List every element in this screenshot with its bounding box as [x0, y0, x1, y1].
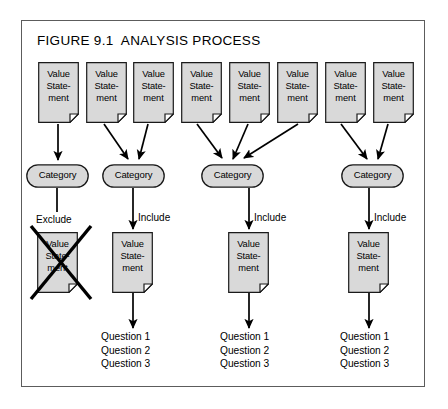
- category-label-2: Category: [102, 169, 165, 180]
- value-statement-doc-3: Value State- ment: [133, 62, 174, 123]
- question-group-1: Question 1 Question 2 Question 3: [101, 330, 150, 371]
- doc-line-3: ment: [133, 92, 174, 104]
- doc-line-2: State-: [38, 80, 79, 92]
- question-group-3: Question 1 Question 2 Question 3: [340, 330, 389, 371]
- category-label-1: Category: [26, 169, 89, 180]
- value-statement-label-4: Value State- ment: [181, 68, 222, 104]
- question-item-3: Question 3: [101, 357, 150, 371]
- doc-line-1: Value: [325, 68, 366, 80]
- value-statement-label-3: Value State- ment: [133, 68, 174, 104]
- doc-line-3: ment: [348, 262, 389, 274]
- include-label-1: Include: [138, 212, 170, 223]
- doc-line-3: ment: [229, 92, 270, 104]
- doc-line-2: State-: [228, 250, 269, 262]
- doc-line-1: Value: [37, 238, 78, 250]
- question-item-2: Question 2: [101, 344, 150, 358]
- doc-line-1: Value: [228, 238, 269, 250]
- category-node-3: Category: [201, 164, 264, 188]
- included-value-statement-label-3: Value State- ment: [348, 238, 389, 274]
- doc-line-1: Value: [38, 68, 79, 80]
- doc-line-3: ment: [277, 92, 318, 104]
- doc-line-1: Value: [112, 238, 153, 250]
- category-node-4: Category: [341, 164, 404, 188]
- doc-line-1: Value: [133, 68, 174, 80]
- value-statement-doc-6: Value State- ment: [277, 62, 318, 123]
- value-statement-doc-5: Value State- ment: [229, 62, 270, 123]
- doc-line-1: Value: [348, 238, 389, 250]
- value-statement-doc-1: Value State- ment: [38, 62, 79, 123]
- question-group-2: Question 1 Question 2 Question 3: [220, 330, 269, 371]
- included-value-statement-doc-3: Value State- ment: [348, 232, 389, 293]
- included-value-statement-doc-2: Value State- ment: [228, 232, 269, 293]
- doc-line-2: State-: [181, 80, 222, 92]
- included-value-statement-label-1: Value State- ment: [112, 238, 153, 274]
- value-statement-doc-4: Value State- ment: [181, 62, 222, 123]
- doc-line-3: ment: [228, 262, 269, 274]
- value-statement-label-6: Value State- ment: [277, 68, 318, 104]
- include-label-2: Include: [254, 212, 286, 223]
- doc-line-2: State-: [37, 250, 78, 262]
- doc-line-3: ment: [86, 92, 127, 104]
- category-label-3: Category: [201, 169, 264, 180]
- doc-line-1: Value: [86, 68, 127, 80]
- doc-line-1: Value: [181, 68, 222, 80]
- exclude-label: Exclude: [36, 214, 72, 225]
- doc-line-3: ment: [325, 92, 366, 104]
- doc-line-1: Value: [373, 68, 414, 80]
- category-label-4: Category: [341, 169, 404, 180]
- value-statement-label-5: Value State- ment: [229, 68, 270, 104]
- doc-line-2: State-: [348, 250, 389, 262]
- category-node-2: Category: [102, 164, 165, 188]
- doc-line-2: State-: [86, 80, 127, 92]
- question-item-3: Question 3: [220, 357, 269, 371]
- doc-line-2: State-: [373, 80, 414, 92]
- question-item-2: Question 2: [220, 344, 269, 358]
- doc-line-3: ment: [38, 92, 79, 104]
- doc-line-2: State-: [133, 80, 174, 92]
- value-statement-doc-7: Value State- ment: [325, 62, 366, 123]
- doc-line-2: State-: [229, 80, 270, 92]
- included-value-statement-doc-1: Value State- ment: [112, 232, 153, 293]
- doc-line-1: Value: [277, 68, 318, 80]
- value-statement-doc-8: Value State- ment: [373, 62, 414, 123]
- value-statement-label-2: Value State- ment: [86, 68, 127, 104]
- figure-title: FIGURE 9.1 ANALYSIS PROCESS: [37, 33, 260, 48]
- figure-diagram: FIGURE 9.1 ANALYSIS PROCESS Value State-…: [0, 0, 448, 409]
- include-label-3: Include: [374, 212, 406, 223]
- value-statement-label-1: Value State- ment: [38, 68, 79, 104]
- doc-line-3: ment: [37, 262, 78, 274]
- doc-line-3: ment: [373, 92, 414, 104]
- question-item-1: Question 1: [340, 330, 389, 344]
- question-item-1: Question 1: [101, 330, 150, 344]
- value-statement-label-7: Value State- ment: [325, 68, 366, 104]
- doc-line-3: ment: [112, 262, 153, 274]
- excluded-value-statement-label: Value State- ment: [37, 238, 78, 274]
- question-item-2: Question 2: [340, 344, 389, 358]
- question-item-3: Question 3: [340, 357, 389, 371]
- value-statement-label-8: Value State- ment: [373, 68, 414, 104]
- doc-line-2: State-: [112, 250, 153, 262]
- doc-line-2: State-: [277, 80, 318, 92]
- question-item-1: Question 1: [220, 330, 269, 344]
- value-statement-doc-2: Value State- ment: [86, 62, 127, 123]
- category-node-1: Category: [26, 164, 89, 188]
- excluded-value-statement-doc: Value State- ment: [37, 232, 78, 293]
- doc-line-1: Value: [229, 68, 270, 80]
- included-value-statement-label-2: Value State- ment: [228, 238, 269, 274]
- doc-line-3: ment: [181, 92, 222, 104]
- doc-line-2: State-: [325, 80, 366, 92]
